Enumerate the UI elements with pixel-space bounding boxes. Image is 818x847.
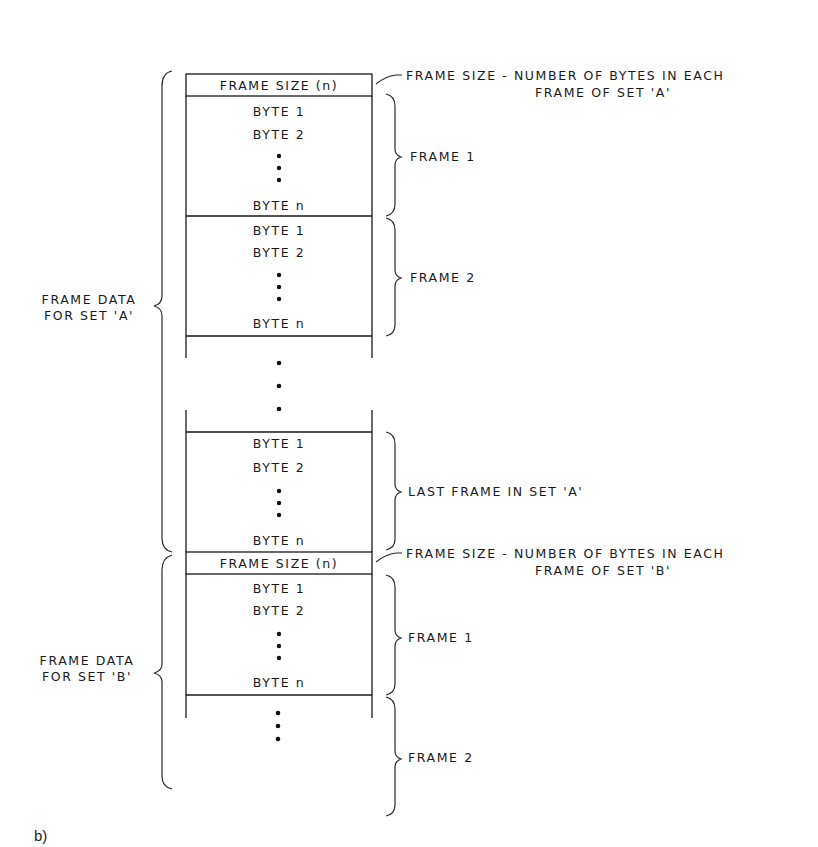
byte-1-label: BYTE 1 (253, 581, 306, 596)
frame-size-b-desc-line2: FRAME OF SET 'B' (535, 563, 671, 578)
set-b-frame-1-label: FRAME 1 (408, 630, 474, 645)
byte-2-label: BYTE 2 (253, 460, 306, 475)
ellipsis-dot (277, 297, 281, 301)
ellipsis-dot (277, 632, 281, 636)
right-brace-frame-1-set-a (386, 94, 401, 216)
right-brace-frame-1-set-b (386, 575, 401, 695)
right-brace-frame-2-set-a (386, 218, 401, 336)
ellipsis-dot (276, 724, 281, 729)
set-a-frame-1-label: FRAME 1 (410, 149, 476, 164)
byte-2-label: BYTE 2 (253, 245, 306, 260)
frame-size-b-leader (376, 553, 402, 562)
figure-caption: b) (34, 827, 47, 844)
left-brace-set-a (154, 71, 172, 552)
set-a-last-frame-label: LAST FRAME IN SET 'A' (408, 484, 583, 499)
ellipsis-dot (277, 656, 281, 660)
byte-1-label: BYTE 1 (253, 436, 306, 451)
byte-n-label: BYTE n (253, 533, 306, 548)
byte-2-label: BYTE 2 (253, 127, 306, 142)
last-frame-set-a: BYTE 1 BYTE 2 BYTE n (186, 432, 372, 552)
frame-size-a-leader (376, 75, 402, 84)
ellipsis-dot (277, 154, 281, 158)
set-b-label-line1: FRAME DATA (40, 653, 135, 668)
ellipsis-dot (277, 407, 282, 412)
frame-2-set-a: BYTE 1 BYTE 2 BYTE n (186, 216, 372, 336)
ellipsis-dot (277, 644, 281, 648)
ellipsis-dot (276, 711, 281, 716)
continuation-gap-set-a (186, 336, 372, 432)
frame-size-label: FRAME SIZE (n) (220, 78, 339, 93)
byte-1-label: BYTE 1 (253, 223, 306, 238)
frame-size-label: FRAME SIZE (n) (220, 556, 339, 571)
frame-size-a-desc-line1: FRAME SIZE - NUMBER OF BYTES IN EACH (406, 68, 724, 83)
ellipsis-dot (277, 361, 282, 366)
set-a-label-line1: FRAME DATA (42, 292, 137, 307)
byte-2-label: BYTE 2 (253, 603, 306, 618)
ellipsis-dot (277, 501, 281, 505)
frame-size-b-desc-line1: FRAME SIZE - NUMBER OF BYTES IN EACH (406, 546, 724, 561)
frame-data-diagram: FRAME SIZE (n) BYTE 1 BYTE 2 BYTE n BYTE… (0, 0, 818, 847)
left-brace-set-b (154, 555, 172, 789)
ellipsis-dot (277, 273, 281, 277)
byte-n-label: BYTE n (253, 675, 306, 690)
ellipsis-dot (277, 166, 281, 170)
frame-1-set-a: BYTE 1 BYTE 2 BYTE n (186, 96, 372, 216)
ellipsis-dot (277, 489, 281, 493)
byte-1-label: BYTE 1 (253, 104, 306, 119)
ellipsis-dot (277, 178, 281, 182)
set-b-frame-2-label: FRAME 2 (408, 750, 474, 765)
frame-size-cell-set-b: FRAME SIZE (n) (186, 552, 372, 574)
set-a-frame-2-label: FRAME 2 (410, 270, 476, 285)
frame-size-cell-set-a: FRAME SIZE (n) (186, 74, 372, 96)
byte-n-label: BYTE n (253, 198, 306, 213)
ellipsis-dot (277, 513, 281, 517)
set-b-label-line2: FOR SET 'B' (42, 669, 132, 684)
set-a-label-line2: FOR SET 'A' (44, 308, 134, 323)
frame-size-a-desc-line2: FRAME OF SET 'A' (535, 85, 671, 100)
right-brace-frame-2-set-b (386, 697, 401, 816)
byte-n-label: BYTE n (253, 316, 306, 331)
frame-1-set-b: BYTE 1 BYTE 2 BYTE n (186, 574, 372, 695)
continuation-set-b (186, 695, 372, 741)
ellipsis-dot (277, 285, 281, 289)
ellipsis-dot (276, 737, 281, 742)
ellipsis-dot (277, 384, 282, 389)
right-brace-last-frame-set-a (386, 432, 401, 550)
